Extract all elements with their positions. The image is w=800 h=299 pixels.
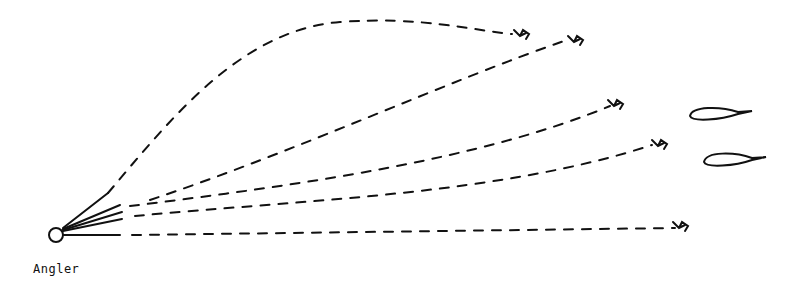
cast-line-1 [108,21,512,193]
fly-icon [568,36,583,45]
fly-icon [673,222,688,231]
angler-marker [49,228,63,242]
cast-line-5 [132,228,675,235]
rod-strokes [63,193,122,235]
cast-line-3 [130,106,610,206]
fly-icon [514,30,529,39]
fish-icon [704,154,766,166]
cast-line-4 [135,145,652,216]
fly-icon [652,140,667,149]
fish-icon [690,108,752,120]
angler-label: Angler [33,262,79,276]
fly-icon [608,100,623,109]
angler-cast-diagram [0,0,800,299]
cast-line-2 [150,40,567,200]
